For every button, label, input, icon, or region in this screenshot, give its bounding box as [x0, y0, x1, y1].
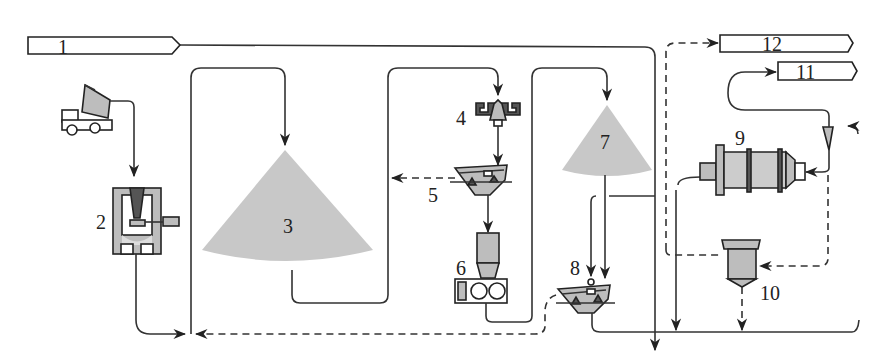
stream-1-box [28, 37, 180, 54]
thickener-overflow-line [666, 250, 722, 255]
mill-discharge-line [678, 177, 700, 185]
stream-11-box [778, 62, 857, 80]
ball-mill-9-icon [700, 145, 805, 195]
screen-5-icon [450, 165, 512, 195]
unit-3-label: 3 [283, 216, 293, 236]
stream-12-box [720, 35, 853, 52]
stream-12-label: 12 [762, 34, 782, 54]
dump-truck-icon [62, 85, 112, 135]
overflow-to-12-line [666, 43, 718, 250]
stream-11-label: 11 [796, 62, 815, 82]
pile-7-to-screen-8-second-line [591, 196, 596, 276]
unit-6-label: 6 [456, 258, 466, 278]
thickener-10-icon [722, 240, 760, 287]
unit-10-label: 10 [760, 283, 780, 303]
gyratory-crusher-icon [113, 188, 179, 254]
unit-7-label: 7 [600, 132, 610, 152]
bottom-collector-line [592, 313, 859, 332]
unit-2-label: 2 [96, 212, 106, 232]
stream-1-label: 1 [58, 37, 68, 57]
hydrocyclone-icon [823, 127, 833, 150]
flowsheet-canvas [0, 0, 887, 358]
cyclone-underflow-to-mill-line [806, 150, 829, 172]
screen-8-icon [556, 279, 615, 313]
unit-4-label: 4 [456, 108, 466, 128]
unit-9-label: 9 [735, 128, 745, 148]
crusher-to-conveyor-line [136, 254, 185, 334]
truck-to-crusher-line [110, 101, 134, 176]
unit-5-label: 5 [428, 185, 438, 205]
water-feed-line [848, 126, 858, 134]
feeder-4-icon [476, 100, 520, 126]
stockpile-3-icon [202, 150, 373, 261]
unit-8-label: 8 [570, 258, 580, 278]
